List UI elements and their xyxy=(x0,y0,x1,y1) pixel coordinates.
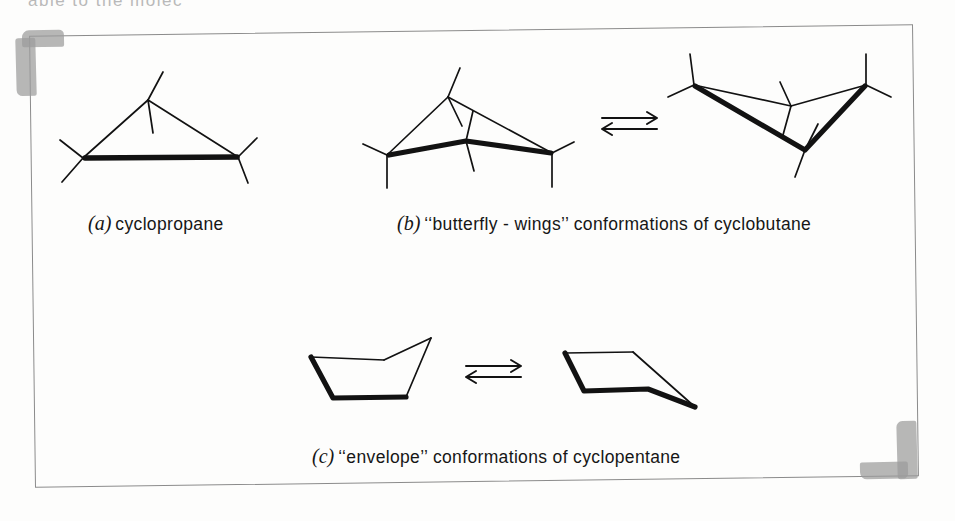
structure-cyclopropane xyxy=(60,72,257,183)
caption-text-b: ‘‘butterfly - wings’’ conformations of c… xyxy=(424,214,811,234)
caption-cyclopentane: (c)‘‘envelope’’ conformations of cyclope… xyxy=(312,445,680,468)
caption-tag-a: (a) xyxy=(88,212,115,234)
caption-cyclopropane: (a)cyclopropane xyxy=(88,212,224,235)
cyclobutane-equilibrium-arrow xyxy=(602,112,657,135)
caption-cyclobutane: (b)‘‘butterfly - wings’’ conformations o… xyxy=(397,212,811,235)
structure-drawings xyxy=(0,0,955,521)
structure-cyclobutane-left xyxy=(363,68,574,188)
structure-cyclopentane-envelope-left xyxy=(311,338,431,398)
caption-text-a: cyclopropane xyxy=(115,214,223,234)
structure-cyclopentane-envelope-right xyxy=(565,352,695,407)
caption-tag-c: (c) xyxy=(312,445,338,467)
caption-tag-b: (b) xyxy=(397,212,424,234)
figure-page: able to the molec xyxy=(0,0,955,521)
cyclopentane-equilibrium-arrow xyxy=(466,360,521,383)
caption-text-c: ‘‘envelope’’ conformations of cyclopenta… xyxy=(338,447,680,467)
structure-cyclobutane-right xyxy=(668,54,891,177)
